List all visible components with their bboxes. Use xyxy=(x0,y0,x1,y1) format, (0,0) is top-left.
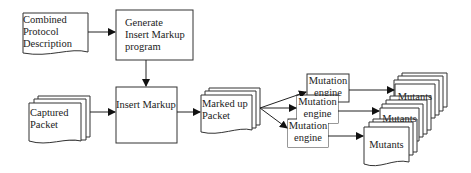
mutation-engine-3-label: Mutation engine xyxy=(288,120,328,147)
generate-program-line-2: Insert Markup xyxy=(125,29,185,41)
captured-packet-line-1: Captured xyxy=(30,107,69,119)
combined-protocol-line-1: Combined xyxy=(23,14,72,26)
insert-markup-line-1: Insert Markup xyxy=(116,99,176,111)
captured-packet-line-2: Packet xyxy=(30,119,69,131)
mutation-engine-2-label: Mutation engine xyxy=(297,96,338,123)
marked-packet-line-1: Marked up xyxy=(202,98,248,110)
generate-program-label: Generate Insert Markup program xyxy=(125,17,185,53)
mutation-engine-1-line-1: Mutation xyxy=(307,75,349,87)
mutants-2-label: Mutants xyxy=(380,113,419,124)
mutants-1-text: Mutants xyxy=(398,91,432,101)
generate-program-line-1: Generate xyxy=(125,17,185,29)
marked-packet-line-2: Packet xyxy=(202,110,248,122)
mutation-engine-3-line-1: Mutation xyxy=(288,120,328,132)
mutation-engine-2-line-1: Mutation xyxy=(297,96,338,108)
combined-protocol-line-2: Protocol xyxy=(23,26,72,38)
combined-protocol-label: Combined Protocol Description xyxy=(23,14,72,50)
generate-program-line-3: program xyxy=(125,41,185,53)
mutants-3-text: Mutants xyxy=(369,139,403,150)
mutants-2-text: Mutants xyxy=(382,113,416,124)
mutants-3-label: Mutants xyxy=(364,139,409,151)
insert-markup-box xyxy=(116,87,177,143)
combined-protocol-line-3: Description xyxy=(23,38,72,50)
mutation-engine-3-line-2: engine xyxy=(288,132,328,144)
mutation-engine-2-line-2: engine xyxy=(297,108,338,120)
captured-packet-label: Captured Packet xyxy=(30,107,69,131)
marked-packet-label: Marked up Packet xyxy=(202,98,248,122)
insert-markup-label: Insert Markup xyxy=(116,99,176,111)
edge-marked-to-engine-3 xyxy=(260,108,287,128)
mutants-1-label: Mutants xyxy=(395,91,435,101)
